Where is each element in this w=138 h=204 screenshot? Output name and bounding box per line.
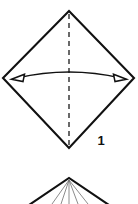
crease-lines-group — [52, 180, 88, 204]
step-number-label: 1 — [92, 133, 110, 149]
step1-group — [3, 11, 134, 148]
step2-preview-group — [29, 178, 109, 204]
origami-diagram-page: 1 — [0, 0, 138, 204]
origami-diagram-canvas — [0, 0, 138, 204]
